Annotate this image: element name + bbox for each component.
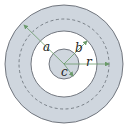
label-a: a (43, 40, 50, 54)
label-b: b (75, 41, 83, 55)
label-c: c (61, 65, 68, 79)
coax-diagram: a b c r (0, 0, 130, 126)
